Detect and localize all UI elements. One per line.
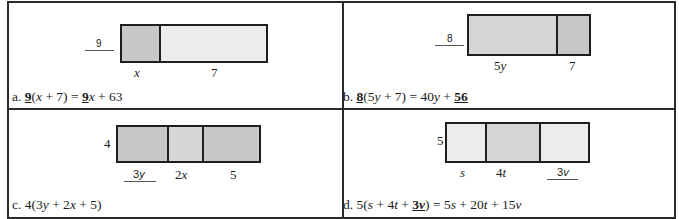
equation-a: a. 9(x + 7) = 9x + 63 [12,89,123,105]
multiplier-blank-line [435,45,464,46]
variable: v [515,197,521,212]
area-model-multiplier: 9 [96,38,102,49]
area-segment-2x [167,127,202,161]
area-model-rectangle [467,14,591,56]
vertical-divider [342,3,344,217]
equation-text: ) = 5 [425,197,451,212]
segment-label: x [134,65,140,81]
equation-text: d. 5( [343,197,368,212]
area-model-rectangle [445,122,590,163]
equation-text: + [440,89,454,104]
area-segment-5y [469,16,556,54]
answer-constant: 56 [454,89,468,104]
area-segment-4t [485,124,539,161]
equation-text: + 7) = [42,89,82,104]
segment-label: 7 [211,65,218,81]
segment-blank-line [547,179,578,180]
equation-prefix: a. [12,89,25,104]
segment-blank-line [124,181,156,182]
horizontal-divider [9,108,674,110]
equation-text: + 63 [95,89,123,104]
equation-text: (5 [363,89,374,104]
area-segment-7 [159,26,266,61]
area-model-multiplier: 4 [104,136,111,152]
area-segment-7 [556,16,589,54]
segment-label: 4t [496,165,506,181]
equation-text: + 15 [488,197,516,212]
segment-label: 5 [230,167,237,183]
area-segment-x [122,26,159,61]
equation-text: + 5) [76,197,102,212]
equation-text: + [398,197,412,212]
answer-term: 3v [412,197,425,212]
segment-label: 7 [569,58,576,74]
segment-label-blank: 3v [557,166,569,178]
area-segment-s [447,124,485,161]
area-model-rectangle [120,24,268,63]
area-model-multiplier: 8 [447,33,453,44]
equation-c: c. 4(3y + 2x + 5) [12,197,101,213]
area-model-rectangle [116,125,261,163]
equation-b: b. 8(5y + 7) = 40y + 56 [343,89,468,105]
equation-prefix: b. [343,89,357,104]
area-segment-5 [202,127,259,161]
answer-factor: 9 [25,89,32,104]
equation-d: d. 5(s + 4t + 3v) = 5s + 20t + 15v [343,197,521,213]
segment-label: 5y [494,58,506,74]
segment-label: s [460,165,465,181]
segment-label: 2x [175,167,187,183]
area-segment-3y [118,127,167,161]
area-segment-3v [539,124,588,161]
segment-label-blank: 3y [133,168,145,180]
equation-text: + 4 [373,197,394,212]
equation-text: + 20 [456,197,484,212]
area-model-multiplier: 5 [437,133,444,149]
equation-text: + 7) = 40 [381,89,434,104]
answer-coefficient: 9 [82,89,89,104]
equation-text: c. 4(3 [12,197,43,212]
multiplier-blank-line [85,50,114,51]
equation-text: + 2 [49,197,70,212]
